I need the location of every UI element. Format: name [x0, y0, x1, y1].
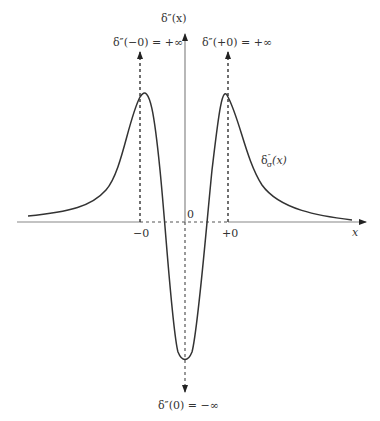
right-tick-label: +0 — [222, 227, 238, 240]
bottom-limit-label: δ″(0) = −∞ — [158, 399, 219, 412]
origin-label: 0 — [187, 208, 194, 221]
curve-label: δ″σ(x) — [261, 152, 287, 169]
left-tick-label: −0 — [133, 227, 149, 240]
x-axis-label: x — [352, 226, 358, 239]
y-axis-label: δ″(x) — [161, 12, 187, 25]
right-peak-label: δ″(+0) = +∞ — [202, 36, 272, 49]
left-peak-label: δ″(−0) = +∞ — [113, 36, 183, 49]
delta-sigma-curve — [28, 93, 352, 359]
